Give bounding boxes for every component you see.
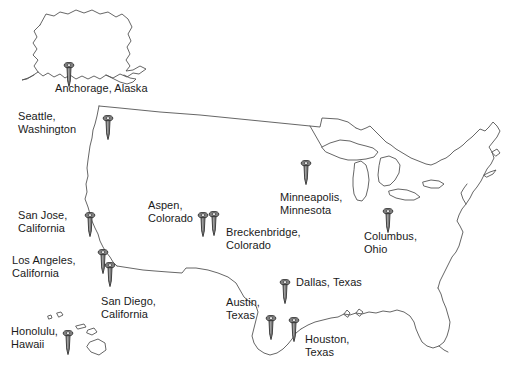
city-label-line: Aspen, [148, 199, 193, 212]
hawaii-bigisland [87, 339, 106, 355]
lake-ontario [423, 180, 444, 188]
map-pin-honolulu-hawaii[interactable] [62, 330, 74, 356]
city-label-austin-texas: Austin,Texas [226, 296, 260, 321]
city-label-line: California [18, 222, 67, 235]
map-pin-houston-texas[interactable] [288, 317, 300, 343]
us-northern-border [99, 106, 356, 128]
city-label-line: Colorado [226, 239, 301, 252]
city-label-minneapolis-minnesota: Minneapolis,Minnesota [280, 191, 342, 216]
city-label-line: Ohio [364, 243, 417, 256]
chesapeake-bay [461, 184, 467, 204]
lake-erie [389, 189, 420, 200]
hawaii-molokai [76, 324, 86, 329]
hawaii-maui [87, 328, 97, 335]
city-label-honolulu-hawaii: Honolulu,Hawaii [11, 325, 58, 350]
city-label-line: Texas [226, 309, 260, 322]
map-pin-dallas-texas[interactable] [279, 279, 291, 305]
pin-icon [62, 330, 74, 356]
city-label-line: Minnesota [280, 204, 342, 217]
us-atlantic-coast [356, 122, 500, 288]
florida-keys [439, 346, 448, 352]
city-label-dallas-texas: Dallas, Texas [296, 276, 362, 289]
city-label-anchorage-alaska: Anchorage, Alaska [55, 82, 148, 95]
minnesota-border-detail [310, 126, 322, 147]
city-label-columbus-ohio: Columbus,Ohio [364, 230, 417, 255]
city-label-line: Colorado [148, 212, 193, 225]
city-label-line: Washington [18, 123, 76, 136]
city-label-san-diego-california: San Diego,California [101, 295, 156, 320]
map-pin-san-diego-california[interactable] [104, 262, 116, 288]
pin-icon [265, 315, 277, 341]
city-label-seattle-washington: Seattle,Washington [18, 110, 76, 135]
city-label-line: Los Angeles, [12, 254, 76, 267]
pin-map-canvas: Anchorage, AlaskaSeattle,WashingtonSan J… [0, 0, 510, 375]
pin-icon [208, 211, 220, 237]
pin-icon [279, 279, 291, 305]
city-label-line: California [101, 308, 156, 321]
pin-icon [300, 160, 312, 186]
pin-icon [102, 115, 114, 141]
city-label-aspen-colorado: Aspen,Colorado [148, 199, 193, 224]
city-label-line: San Jose, [18, 209, 67, 222]
city-label-line: Minneapolis, [280, 191, 342, 204]
pin-icon [104, 262, 116, 288]
city-label-line: Columbus, [364, 230, 417, 243]
city-label-line: Austin, [226, 296, 260, 309]
city-label-line: Hawaii [11, 338, 58, 351]
city-label-line: Texas [305, 346, 349, 359]
lake-huron [378, 156, 400, 186]
city-label-line: Honolulu, [11, 325, 58, 338]
city-label-line: Anchorage, Alaska [55, 82, 148, 95]
hawaii-kauai [48, 315, 52, 319]
city-label-line: San Diego, [101, 295, 156, 308]
city-label-line: California [12, 267, 76, 280]
pin-icon [288, 317, 300, 343]
alaska-aleutians [22, 72, 38, 80]
alaska-outline [33, 10, 146, 79]
city-label-houston-texas: Houston,Texas [305, 333, 349, 358]
city-label-line: Houston, [305, 333, 349, 346]
city-label-line: Seattle, [18, 110, 76, 123]
city-label-line: Breckenbridge, [226, 226, 301, 239]
map-pin-minneapolis-minnesota[interactable] [300, 160, 312, 186]
lake-michigan [353, 161, 369, 201]
map-pin-san-jose-california[interactable] [84, 212, 96, 238]
city-label-line: Dallas, Texas [296, 276, 362, 289]
city-label-los-angeles-california: Los Angeles,California [12, 254, 76, 279]
hawaii-oahu [57, 312, 63, 317]
map-pin-austin-texas[interactable] [265, 315, 277, 341]
gulf-bay-detail [356, 309, 363, 316]
map-pin-breckenbridge-colorado[interactable] [208, 211, 220, 237]
city-label-san-jose-california: San Jose,California [18, 209, 67, 234]
pin-icon [84, 212, 96, 238]
city-label-breckenbridge-colorado: Breckenbridge,Colorado [226, 226, 301, 251]
map-pin-seattle-washington[interactable] [102, 115, 114, 141]
lake-superior [322, 140, 378, 160]
gulf-delta-detail [344, 310, 350, 317]
